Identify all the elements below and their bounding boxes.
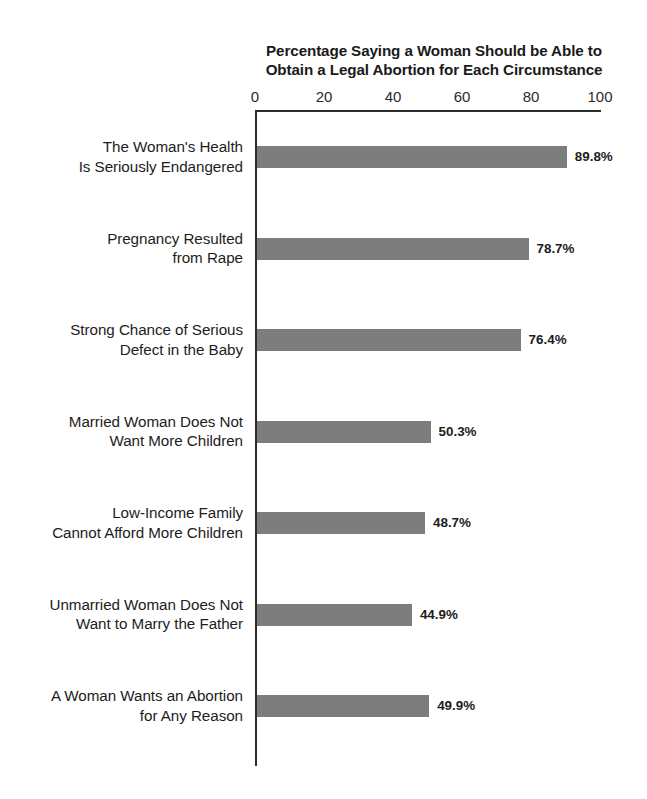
bar-value-label: 50.3% bbox=[439, 421, 477, 443]
category-label-line-2: from Rape bbox=[10, 248, 243, 268]
bar-row: The Woman's HealthIs Seriously Endangere… bbox=[0, 110, 647, 200]
bar-value-label: 89.8% bbox=[575, 146, 613, 168]
chart-title-line-1: Percentage Saying a Woman Should be Able… bbox=[228, 41, 640, 60]
bar-value-label: 48.7% bbox=[433, 512, 471, 534]
bar-row: A Woman Wants an Abortionfor Any Reason4… bbox=[0, 659, 647, 749]
category-label: A Woman Wants an Abortionfor Any Reason bbox=[10, 686, 243, 725]
bar bbox=[257, 329, 521, 351]
category-label-line-2: Defect in the Baby bbox=[10, 340, 243, 360]
category-label-line-2: Want More Children bbox=[10, 431, 243, 451]
category-label: The Woman's HealthIs Seriously Endangere… bbox=[10, 137, 243, 176]
bar-rows: The Woman's HealthIs Seriously Endangere… bbox=[0, 110, 647, 770]
horizontal-bar-chart: Percentage Saying a Woman Should be Able… bbox=[0, 0, 647, 799]
bar-value-label: 78.7% bbox=[537, 238, 575, 260]
x-axis-tick-0: 0 bbox=[251, 88, 259, 106]
bar-row: Unmarried Woman Does NotWant to Marry th… bbox=[0, 568, 647, 658]
bar-value-label: 44.9% bbox=[420, 604, 458, 626]
category-label: Unmarried Woman Does NotWant to Marry th… bbox=[10, 595, 243, 634]
category-label-line-1: Married Woman Does Not bbox=[10, 412, 243, 432]
category-label: Married Woman Does NotWant More Children bbox=[10, 412, 243, 451]
bar bbox=[257, 604, 412, 626]
category-label-line-1: The Woman's Health bbox=[10, 137, 243, 157]
x-axis-tick-labels: 020406080100 bbox=[255, 88, 600, 106]
x-axis-tick-40: 40 bbox=[385, 88, 402, 106]
chart-title-line-2: Obtain a Legal Abortion for Each Circums… bbox=[228, 60, 640, 79]
category-label-line-1: Pregnancy Resulted bbox=[10, 229, 243, 249]
bar bbox=[257, 146, 567, 168]
bar-row: Married Woman Does NotWant More Children… bbox=[0, 385, 647, 475]
x-axis-tick-60: 60 bbox=[454, 88, 471, 106]
category-label-line-1: Unmarried Woman Does Not bbox=[10, 595, 243, 615]
bar-row: Pregnancy Resultedfrom Rape78.7% bbox=[0, 202, 647, 292]
category-label-line-2: for Any Reason bbox=[10, 706, 243, 726]
category-label: Low-Income FamilyCannot Afford More Chil… bbox=[10, 503, 243, 542]
category-label: Pregnancy Resultedfrom Rape bbox=[10, 229, 243, 268]
bar bbox=[257, 695, 429, 717]
bar-value-label: 49.9% bbox=[437, 695, 475, 717]
category-label: Strong Chance of SeriousDefect in the Ba… bbox=[10, 320, 243, 359]
bar-value-label: 76.4% bbox=[529, 329, 567, 351]
x-axis-tick-20: 20 bbox=[316, 88, 333, 106]
bar-row: Low-Income FamilyCannot Afford More Chil… bbox=[0, 476, 647, 566]
category-label-line-1: Low-Income Family bbox=[10, 503, 243, 523]
category-label-line-2: Want to Marry the Father bbox=[10, 614, 243, 634]
chart-title: Percentage Saying a Woman Should be Able… bbox=[228, 41, 640, 79]
bar bbox=[257, 421, 431, 443]
category-label-line-1: Strong Chance of Serious bbox=[10, 320, 243, 340]
x-axis-tick-80: 80 bbox=[523, 88, 540, 106]
bar bbox=[257, 512, 425, 534]
category-label-line-1: A Woman Wants an Abortion bbox=[10, 686, 243, 706]
x-axis-tick-100: 100 bbox=[587, 88, 612, 106]
category-label-line-2: Cannot Afford More Children bbox=[10, 523, 243, 543]
bar-row: Strong Chance of SeriousDefect in the Ba… bbox=[0, 293, 647, 383]
category-label-line-2: Is Seriously Endangered bbox=[10, 157, 243, 177]
bar bbox=[257, 238, 529, 260]
